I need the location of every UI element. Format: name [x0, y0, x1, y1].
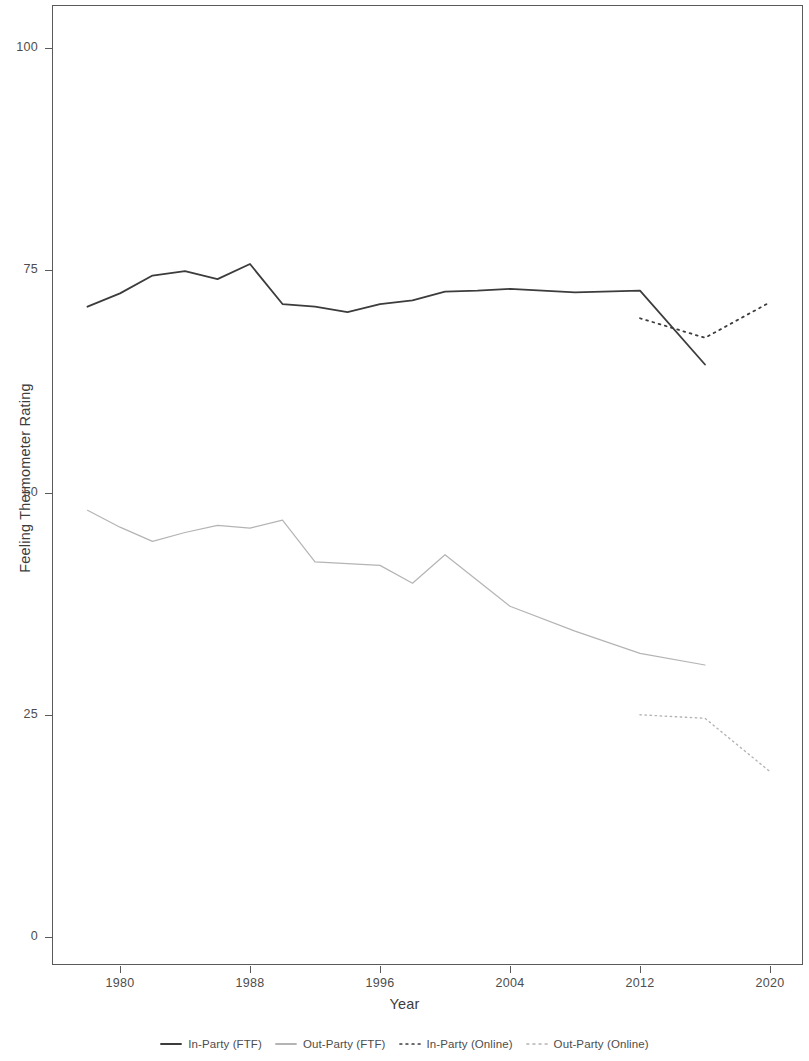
x-axis-label: Year — [0, 996, 809, 1012]
y-tick-mark — [45, 270, 52, 271]
legend-entry[interactable]: Out-Party (FTF) — [275, 1038, 386, 1050]
y-tick-mark — [45, 48, 52, 49]
legend-entry[interactable]: In-Party (FTF) — [160, 1038, 262, 1050]
x-tick-mark — [250, 966, 251, 973]
legend-entry[interactable]: Out-Party (Online) — [526, 1038, 649, 1050]
legend-label: Out-Party (Online) — [554, 1038, 649, 1050]
x-tick-label: 1988 — [210, 976, 290, 990]
plot-panel — [52, 5, 803, 965]
legend-key-icon — [160, 1038, 182, 1050]
x-tick-label: 2012 — [600, 976, 680, 990]
y-tick-label: 25 — [0, 707, 38, 721]
y-tick-label: 75 — [0, 262, 38, 276]
y-tick-mark — [45, 493, 52, 494]
y-tick-label: 0 — [0, 929, 38, 943]
legend-entry[interactable]: In-Party (Online) — [399, 1038, 513, 1050]
chart-figure: 0255075100 198019881996200420122020 Feel… — [0, 0, 809, 1061]
legend-label: In-Party (FTF) — [188, 1038, 262, 1050]
legend-key-icon — [275, 1038, 297, 1050]
y-tick-label: 100 — [0, 40, 38, 54]
y-tick-mark — [45, 715, 52, 716]
legend-label: Out-Party (FTF) — [303, 1038, 386, 1050]
x-tick-label: 1996 — [340, 976, 420, 990]
legend-key-icon — [526, 1038, 548, 1050]
x-tick-mark — [120, 966, 121, 973]
y-axis-label: Feeling Thermometer Rating — [17, 368, 33, 588]
x-tick-mark — [770, 966, 771, 973]
y-tick-mark — [45, 937, 52, 938]
x-tick-mark — [640, 966, 641, 973]
legend-key-icon — [399, 1038, 421, 1050]
x-tick-label: 2020 — [730, 976, 809, 990]
chart-legend: In-Party (FTF)Out-Party (FTF)In-Party (O… — [0, 1038, 809, 1050]
x-tick-mark — [510, 966, 511, 973]
x-tick-label: 1980 — [80, 976, 160, 990]
x-tick-label: 2004 — [470, 976, 550, 990]
x-tick-mark — [380, 966, 381, 973]
legend-label: In-Party (Online) — [427, 1038, 513, 1050]
